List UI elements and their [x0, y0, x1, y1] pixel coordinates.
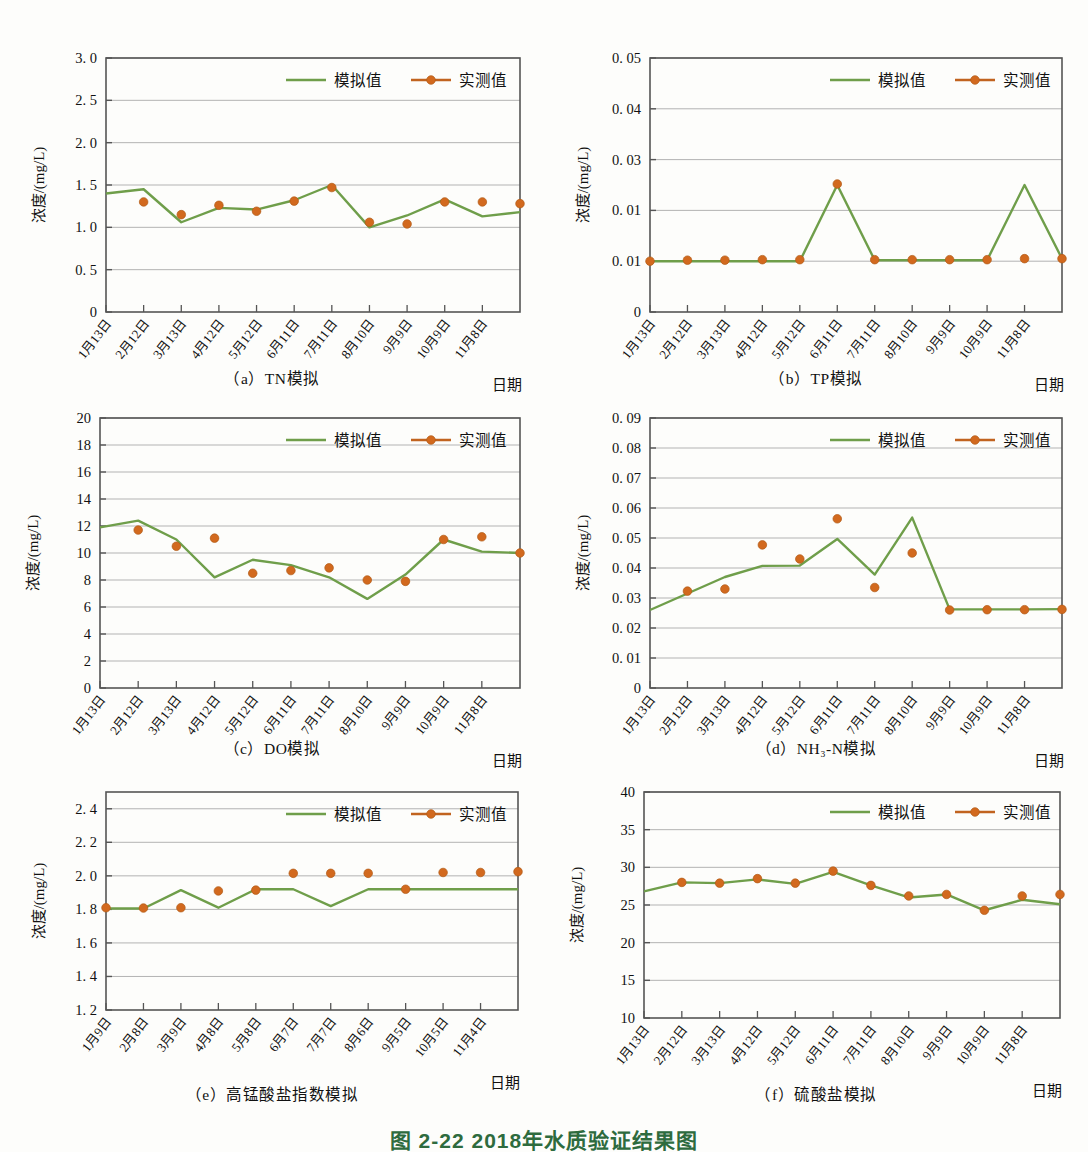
svg-text:16: 16: [77, 464, 92, 480]
svg-text:1. 0: 1. 0: [75, 219, 97, 235]
svg-text:3月13日: 3月13日: [150, 317, 190, 362]
subplot-cell-d: 00. 010. 020. 030. 040. 050. 060. 070. 0…: [544, 396, 1088, 772]
svg-text:12: 12: [77, 518, 92, 534]
svg-text:9月9日: 9月9日: [922, 693, 958, 733]
svg-text:8月6日: 8月6日: [341, 1015, 377, 1055]
svg-text:7月7日: 7月7日: [303, 1015, 339, 1055]
svg-text:2. 0: 2. 0: [75, 868, 97, 884]
svg-text:0. 03: 0. 03: [612, 152, 641, 168]
svg-text:4月12日: 4月12日: [187, 317, 227, 362]
svg-text:5月12日: 5月12日: [764, 1023, 804, 1068]
svg-text:11月8日: 11月8日: [993, 317, 1033, 362]
svg-text:1. 4: 1. 4: [75, 968, 98, 984]
svg-text:5月12日: 5月12日: [768, 317, 808, 362]
subplot-caption-a: （a）TN模拟: [0, 366, 544, 388]
svg-text:8: 8: [84, 572, 91, 588]
svg-text:4: 4: [84, 626, 92, 642]
svg-text:浓度/(mg/L): 浓度/(mg/L): [569, 867, 586, 944]
svg-text:6月11日: 6月11日: [806, 317, 846, 362]
svg-text:实测值: 实测值: [1003, 432, 1051, 449]
chart-d: 00. 010. 020. 030. 040. 050. 060. 070. 0…: [544, 396, 1088, 772]
svg-text:2月12日: 2月12日: [650, 1023, 690, 1068]
svg-text:实测值: 实测值: [1003, 72, 1051, 89]
svg-text:0: 0: [634, 680, 641, 696]
svg-text:实测值: 实测值: [1003, 804, 1051, 821]
svg-text:2月12日: 2月12日: [107, 693, 147, 738]
page-top-cropped-text: [60, 0, 360, 12]
chart-b: 00. 010. 010. 030. 040. 051月13日2月12日3月13…: [544, 14, 1088, 396]
svg-text:3月13日: 3月13日: [693, 317, 733, 362]
svg-text:0. 05: 0. 05: [612, 530, 641, 546]
svg-text:8月10日: 8月10日: [881, 317, 921, 362]
svg-text:浓度/(mg/L): 浓度/(mg/L): [575, 147, 592, 224]
subplot-caption-b: （b）TP模拟: [544, 366, 1088, 388]
svg-text:7月11日: 7月11日: [298, 693, 338, 738]
svg-text:2月8日: 2月8日: [116, 1015, 152, 1055]
svg-text:浓度/(mg/L): 浓度/(mg/L): [25, 515, 42, 592]
svg-text:模拟值: 模拟值: [334, 432, 382, 449]
svg-text:2. 0: 2. 0: [75, 135, 97, 151]
svg-text:6月11日: 6月11日: [802, 1023, 842, 1068]
subplot-cell-f: 101520253035401月13日2月12日3月13日4月12日5月12日6…: [544, 772, 1088, 1140]
subplot-cell-e: 1. 21. 41. 61. 82. 02. 22. 41月9日2月8日3月9日…: [0, 772, 544, 1140]
svg-text:1. 6: 1. 6: [75, 935, 97, 951]
svg-text:2. 2: 2. 2: [75, 834, 97, 850]
svg-text:14: 14: [77, 491, 92, 507]
svg-text:2月12日: 2月12日: [112, 317, 152, 362]
svg-text:0. 01: 0. 01: [612, 253, 641, 269]
svg-text:0. 09: 0. 09: [612, 410, 641, 426]
svg-text:模拟值: 模拟值: [878, 804, 926, 821]
svg-text:2月12日: 2月12日: [656, 317, 696, 362]
svg-text:6月7日: 6月7日: [266, 1015, 302, 1055]
svg-text:5月12日: 5月12日: [221, 693, 261, 738]
svg-text:0. 01: 0. 01: [612, 650, 641, 666]
svg-text:10月5日: 10月5日: [412, 1015, 452, 1060]
svg-text:18: 18: [77, 437, 92, 453]
subplot-cell-b: 00. 010. 010. 030. 040. 051月13日2月12日3月13…: [544, 14, 1088, 396]
svg-text:1月13日: 1月13日: [69, 693, 109, 738]
subplot-caption-c: （c）DO模拟: [0, 736, 544, 758]
svg-text:9月5日: 9月5日: [378, 1015, 414, 1055]
svg-text:实测值: 实测值: [459, 72, 507, 89]
svg-text:1月13日: 1月13日: [619, 317, 659, 362]
svg-text:1月13日: 1月13日: [75, 317, 115, 362]
svg-text:3. 0: 3. 0: [75, 50, 97, 66]
svg-text:模拟值: 模拟值: [878, 72, 926, 89]
svg-text:实测值: 实测值: [459, 806, 507, 823]
svg-text:10: 10: [621, 1010, 636, 1026]
chart-a: 00. 51. 01. 52. 02. 53. 01月13日2月12日3月13日…: [0, 14, 544, 396]
svg-text:模拟值: 模拟值: [334, 806, 382, 823]
svg-text:2. 4: 2. 4: [75, 801, 98, 817]
subplot-grid: 00. 51. 01. 52. 02. 53. 01月13日2月12日3月13日…: [0, 14, 1088, 1114]
svg-text:7月11日: 7月11日: [840, 1023, 880, 1068]
svg-text:模拟值: 模拟值: [334, 72, 382, 89]
svg-text:1月13日: 1月13日: [619, 693, 659, 738]
svg-text:0: 0: [84, 680, 91, 696]
svg-text:浓度/(mg/L): 浓度/(mg/L): [31, 863, 48, 940]
svg-text:浓度/(mg/L): 浓度/(mg/L): [575, 515, 592, 592]
svg-text:3月9日: 3月9日: [153, 1015, 189, 1055]
svg-text:0. 03: 0. 03: [612, 590, 641, 606]
chart-c: 024681012141618201月13日2月12日3月13日4月12日5月1…: [0, 396, 544, 772]
figure-page: 00. 51. 01. 52. 02. 53. 01月13日2月12日3月13日…: [0, 0, 1088, 1152]
svg-text:2月12日: 2月12日: [656, 693, 696, 738]
svg-text:2. 5: 2. 5: [75, 92, 97, 108]
svg-text:11月8日: 11月8日: [451, 693, 491, 738]
svg-text:7月11日: 7月11日: [301, 317, 341, 362]
svg-text:3月13日: 3月13日: [145, 693, 185, 738]
svg-text:10月9日: 10月9日: [413, 317, 453, 362]
svg-text:20: 20: [77, 410, 92, 426]
svg-text:5月12日: 5月12日: [768, 693, 808, 738]
svg-text:0. 01: 0. 01: [612, 202, 641, 218]
svg-text:4月8日: 4月8日: [191, 1015, 227, 1055]
svg-text:10月9日: 10月9日: [953, 1023, 993, 1068]
svg-text:4月12日: 4月12日: [726, 1023, 766, 1068]
subplot-caption-e: （e）高锰酸盐指数模拟: [0, 1082, 544, 1104]
svg-text:3月13日: 3月13日: [693, 693, 733, 738]
svg-text:4月12日: 4月12日: [183, 693, 223, 738]
svg-text:8月10日: 8月10日: [338, 317, 378, 362]
subplot-cell-c: 024681012141618201月13日2月12日3月13日4月12日5月1…: [0, 396, 544, 772]
svg-text:35: 35: [621, 822, 636, 838]
svg-text:7月11日: 7月11日: [844, 693, 884, 738]
svg-text:15: 15: [621, 972, 636, 988]
